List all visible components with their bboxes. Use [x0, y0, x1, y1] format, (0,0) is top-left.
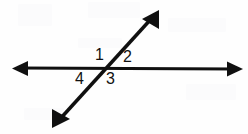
angle-label-1: 1: [95, 47, 104, 63]
angle-label-2: 2: [123, 49, 132, 65]
angle-diagram-figure: 1 2 3 4: [0, 0, 248, 134]
angle-label-4: 4: [75, 71, 84, 87]
lines-vector-layer: [0, 0, 248, 134]
horizontal-line-right-arrowhead: [227, 62, 243, 77]
horizontal-line-left-arrowhead: [12, 61, 28, 76]
horizontal-line-shaft: [20, 68, 235, 69]
angle-label-3: 3: [106, 71, 115, 87]
